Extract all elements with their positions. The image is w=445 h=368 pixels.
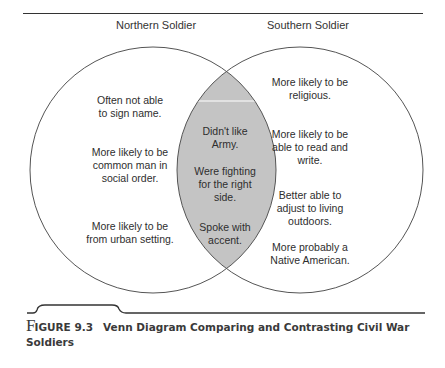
southern-soldier-label: Southern Soldier (248, 19, 368, 31)
north-item: More likely to be from urban setting. (65, 220, 195, 246)
south-item: More likely to be religious. (250, 76, 370, 102)
south-item: More probably a Native American. (250, 241, 370, 267)
north-item: Often not able to sign name. (70, 94, 190, 120)
figure-caption: FIGURE 9.3Venn Diagram Comparing and Con… (26, 318, 426, 350)
figure-number: IGURE 9.3 (34, 321, 93, 333)
north-item: More likely to be common man in social o… (70, 146, 190, 185)
south-item: Better able to adjust to living outdoors… (250, 189, 370, 228)
northern-soldier-label: Northern Soldier (96, 19, 216, 31)
south-item: More likely to be able to read and write… (250, 128, 370, 167)
caption-rule (27, 305, 425, 313)
